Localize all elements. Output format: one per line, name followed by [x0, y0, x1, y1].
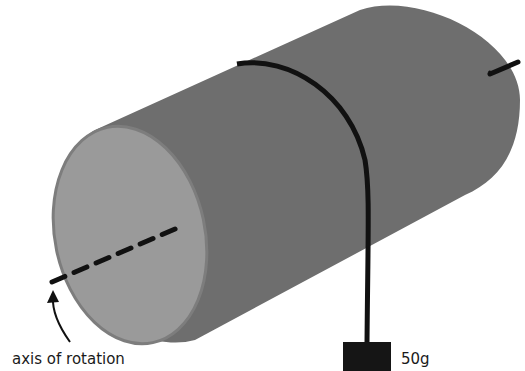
diagram-canvas: 50g axis of rotation — [0, 0, 525, 371]
mass-block — [343, 342, 391, 371]
curved-arrow-icon — [53, 297, 70, 342]
mass-label: 50g — [401, 350, 430, 368]
axis-label: axis of rotation — [12, 350, 125, 368]
axis-line-back-stub — [489, 72, 491, 73]
curved-arrow-head — [47, 290, 59, 303]
